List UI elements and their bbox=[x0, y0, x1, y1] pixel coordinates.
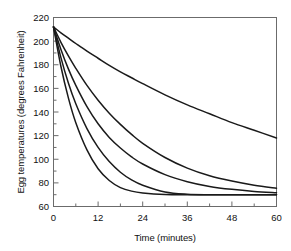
plot-frame bbox=[54, 18, 277, 207]
x-tick-label: 12 bbox=[81, 213, 115, 223]
x-axis-tick-labels: 01224364860 bbox=[0, 213, 290, 227]
x-tick-label: 48 bbox=[215, 213, 249, 223]
x-tick-label: 60 bbox=[260, 213, 291, 223]
x-tick-label: 24 bbox=[126, 213, 160, 223]
chart-figure: Egg temperatures (degrees Fahrenheit) 60… bbox=[0, 0, 290, 251]
x-tick-label: 0 bbox=[37, 213, 71, 223]
x-axis-title: Time (minutes) bbox=[53, 232, 277, 243]
x-tick-label: 36 bbox=[170, 213, 204, 223]
